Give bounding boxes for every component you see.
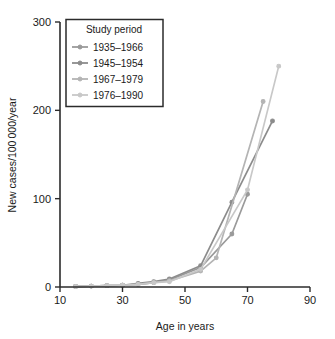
chart-legend: Study period 1935–19661945–19541967–1979… — [66, 20, 163, 107]
x-axis-title: Age in years — [156, 320, 214, 332]
legend-title: Study period — [86, 24, 142, 35]
data-point — [199, 267, 203, 271]
data-point — [277, 64, 281, 68]
y-tick-label: 100 — [33, 193, 51, 205]
data-point — [246, 188, 250, 192]
y-axis-ticks: 0100200300 — [33, 16, 60, 293]
data-point — [152, 281, 156, 285]
y-tick-label: 300 — [33, 16, 51, 28]
data-point — [214, 256, 218, 260]
x-tick-label: 10 — [54, 294, 66, 306]
line-chart: 0100200300 1030507090 Age in years New c… — [0, 0, 335, 339]
x-tick-label: 50 — [179, 294, 191, 306]
legend-swatch-marker — [78, 61, 82, 65]
legend-label: 1976–1990 — [93, 90, 143, 101]
legend-label: 1967–1979 — [93, 74, 143, 85]
legend-label: 1945–1954 — [93, 58, 143, 69]
x-tick-label: 90 — [304, 294, 316, 306]
x-tick-label: 70 — [241, 294, 253, 306]
data-point — [167, 280, 171, 284]
data-point — [271, 119, 275, 123]
data-point — [230, 232, 234, 236]
x-tick-label: 30 — [116, 294, 128, 306]
legend-swatch-marker — [78, 77, 82, 81]
legend-swatch-marker — [78, 93, 82, 97]
y-axis-title: New cases/100 000/year — [6, 97, 18, 212]
data-point — [261, 100, 265, 104]
y-tick-label: 200 — [33, 104, 51, 116]
legend-label: 1935–1966 — [93, 42, 143, 53]
legend-swatch-marker — [78, 45, 82, 49]
y-tick-label: 0 — [45, 281, 51, 293]
series-1 — [74, 192, 250, 288]
data-point — [136, 282, 140, 286]
chart-figure: 0100200300 1030507090 Age in years New c… — [0, 0, 335, 339]
series-line — [76, 102, 264, 287]
x-axis-ticks: 1030507090 — [54, 287, 316, 306]
